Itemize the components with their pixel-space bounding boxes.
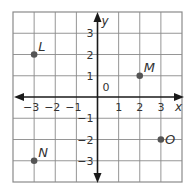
point-N (31, 157, 38, 164)
x-tick-label: −2 (44, 101, 60, 114)
coordinate-plane: −3−2−1123321−1−2−3 x y 0 LMNO (0, 0, 193, 193)
y-tick-label: 1 (87, 70, 94, 83)
point-label-O: O (165, 132, 175, 147)
x-axis-label: x (174, 100, 183, 114)
x-axis-arrow-left-icon (14, 93, 24, 101)
point-L (31, 51, 38, 58)
x-tick-label: 3 (157, 101, 164, 114)
point-label-M: M (144, 60, 155, 75)
point-label-N: N (38, 145, 48, 160)
x-tick-label: 1 (115, 101, 122, 114)
x-tick-label: 2 (136, 101, 143, 114)
y-tick-label: −2 (77, 134, 93, 147)
y-axis-arrow-up-icon (94, 12, 102, 22)
y-tick-label: −1 (77, 112, 93, 125)
point-label-L: L (38, 39, 45, 54)
y-tick-label: 3 (87, 27, 94, 40)
point-M (136, 72, 143, 79)
y-axis-label: y (101, 14, 110, 28)
y-tick-label: 2 (87, 49, 94, 62)
origin-label: 0 (103, 81, 110, 94)
point-O (158, 136, 165, 143)
y-tick-label: −3 (77, 155, 93, 168)
x-tick-label: −3 (23, 101, 39, 114)
